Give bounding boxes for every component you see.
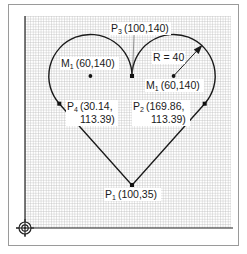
label-p4: P4(30.14, (67, 100, 113, 113)
point-p4-marker (57, 102, 61, 106)
center-m1-right-marker (172, 74, 176, 78)
point-p2-marker (203, 102, 207, 106)
center-m1-left-marker (89, 74, 93, 78)
label-p2-line2: 113.39) (151, 113, 186, 125)
label-m1-left: M1(60,140) (61, 57, 115, 70)
point-p1-marker (130, 183, 134, 187)
label-radius: R = 40 (153, 51, 184, 63)
heart-diagram: P3(100,140) M1(60,140) R = 40 M1(60,140)… (0, 0, 247, 254)
point-p3-marker (130, 74, 134, 78)
label-p4-line2: 113.39) (80, 113, 115, 125)
label-m1-right: M1(60,140) (146, 79, 200, 92)
